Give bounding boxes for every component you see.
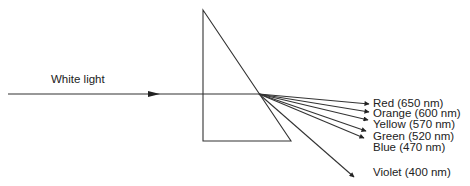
ray-green bbox=[259, 94, 366, 131]
label-violet: Violet (400 nm) bbox=[373, 166, 451, 178]
label-yellow: Yellow (570 nm) bbox=[373, 118, 455, 130]
dispersed-rays bbox=[259, 94, 369, 177]
white-light-arrowhead-icon bbox=[148, 91, 160, 97]
label-blue: Blue (470 nm) bbox=[373, 141, 445, 153]
prism-diagram: White light Red (650 nm) Orange (600 nm)… bbox=[0, 0, 470, 186]
prism bbox=[203, 10, 291, 141]
white-light-label: White light bbox=[51, 73, 105, 85]
ray-yellow bbox=[259, 94, 368, 120]
ray-violet bbox=[259, 94, 354, 177]
